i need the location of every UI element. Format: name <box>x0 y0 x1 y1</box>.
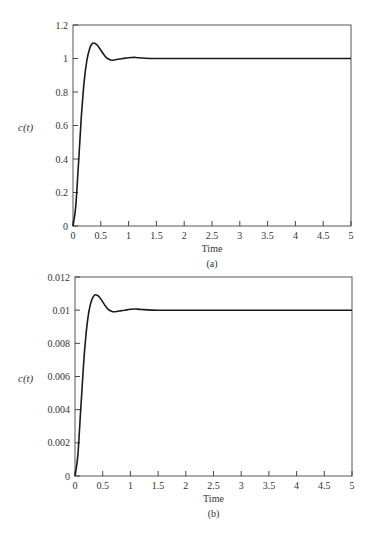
y-axis-ticks: 00.20.40.60.811.2 <box>56 20 79 232</box>
x-tick-label: 1 <box>128 480 133 491</box>
y-tick-label: 0.6 <box>56 120 69 131</box>
x-tick-label: 0.5 <box>96 480 109 491</box>
x-tick-label: 0.5 <box>95 230 108 241</box>
response-curve <box>73 43 351 226</box>
chart-panel-a: 00.20.40.60.811.2 00.511.522.533.544.55 … <box>18 20 354 271</box>
panel-caption: (a) <box>206 258 217 270</box>
step-response-figure: 00.20.40.60.811.2 00.511.522.533.544.55 … <box>0 0 373 534</box>
x-tick-label: 5 <box>349 230 354 241</box>
y-tick-label: 0 <box>63 221 68 232</box>
x-axis-ticks: 00.511.522.533.544.55 <box>71 221 354 241</box>
x-tick-label: 1.5 <box>152 480 165 491</box>
x-tick-label: 1.5 <box>150 230 163 241</box>
y-tick-label: 0 <box>65 471 70 482</box>
x-tick-label: 2 <box>182 230 187 241</box>
y-tick-label: 0.012 <box>48 272 71 283</box>
y-tick-label: 0.01 <box>53 305 71 316</box>
x-tick-label: 4.5 <box>317 230 330 241</box>
y-tick-label: 0.006 <box>48 371 71 382</box>
x-tick-label: 4.5 <box>318 480 331 491</box>
x-tick-label: 3 <box>237 230 242 241</box>
y-tick-label: 0.2 <box>56 187 69 198</box>
response-curve <box>75 295 352 476</box>
x-tick-label: 3 <box>239 480 244 491</box>
x-axis-label: Time <box>202 243 223 254</box>
x-tick-label: 2.5 <box>207 480 220 491</box>
y-tick-label: 0.8 <box>56 87 69 98</box>
x-tick-label: 3.5 <box>261 230 274 241</box>
y-tick-label: 1 <box>63 53 68 64</box>
panel-caption: (b) <box>208 508 220 520</box>
y-tick-label: 0.4 <box>56 154 69 165</box>
x-tick-label: 0 <box>71 230 76 241</box>
x-tick-label: 4 <box>293 230 298 241</box>
x-tick-label: 2.5 <box>206 230 219 241</box>
chart-panel-b: 00.0020.0040.0060.0080.010.012 00.511.52… <box>18 272 355 521</box>
y-tick-label: 0.008 <box>48 338 71 349</box>
x-tick-label: 5 <box>350 480 355 491</box>
x-tick-label: 4 <box>294 480 299 491</box>
y-tick-label: 0.004 <box>48 404 71 415</box>
y-axis-label: c(t) <box>18 121 34 134</box>
y-tick-label: 0.002 <box>48 437 71 448</box>
y-tick-label: 1.2 <box>56 20 69 31</box>
plot-area-frame <box>73 25 351 226</box>
x-axis-ticks: 00.511.522.533.544.55 <box>73 471 355 491</box>
x-tick-label: 2 <box>183 480 188 491</box>
x-tick-label: 1 <box>126 230 131 241</box>
x-tick-label: 0 <box>73 480 78 491</box>
x-axis-label: Time <box>203 493 224 504</box>
plot-area-frame <box>75 277 352 476</box>
y-axis-label: c(t) <box>18 372 34 385</box>
x-tick-label: 3.5 <box>263 480 276 491</box>
